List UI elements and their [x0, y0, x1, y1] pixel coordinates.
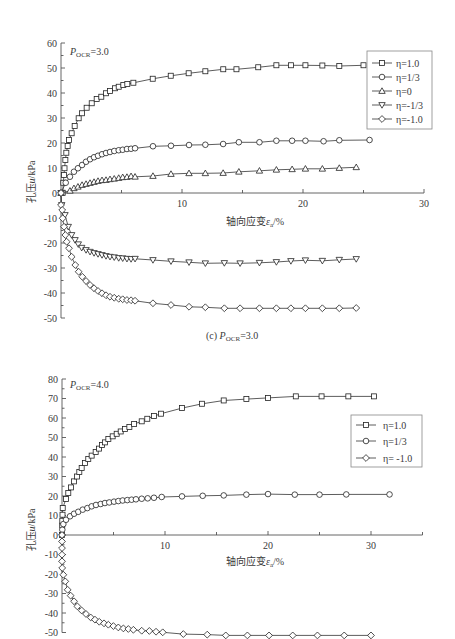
square-marker-icon [108, 89, 113, 94]
triangle-up-marker-icon [202, 170, 208, 176]
series-square [60, 394, 377, 538]
square-marker-icon [372, 394, 377, 399]
square-marker-icon [72, 479, 77, 484]
legend-label: η=1/3 [396, 72, 420, 83]
circle-marker-icon [159, 494, 165, 500]
x-axis-label: 轴向应变εa/% [226, 215, 284, 229]
diamond-marker-icon [150, 300, 157, 307]
series-line [62, 396, 374, 535]
square-marker-icon [127, 424, 132, 429]
diamond-marker-icon [273, 305, 280, 312]
y-axis-label: 孔压u/kPa [26, 508, 37, 551]
square-marker-icon [99, 94, 104, 99]
x-tick-label: 20 [298, 198, 308, 209]
diamond-marker-icon [353, 305, 360, 312]
square-marker-icon [337, 64, 342, 69]
square-marker-icon [62, 173, 67, 178]
square-marker-icon [151, 414, 156, 419]
circle-marker-icon [132, 145, 138, 151]
diamond-marker-icon [368, 632, 375, 639]
series-line [61, 193, 356, 308]
diamond-marker-icon [130, 626, 137, 633]
square-marker-icon [89, 101, 94, 106]
diamond-marker-icon [244, 632, 251, 639]
square-marker-icon [64, 150, 69, 155]
circle-marker-icon [244, 492, 250, 498]
legend-label: η= -1.0 [383, 453, 412, 464]
diamond-marker-icon [68, 253, 75, 260]
y-tick-label: -20 [44, 238, 57, 249]
circle-marker-icon [274, 138, 280, 144]
circle-marker-icon [179, 494, 185, 500]
x-tick-label: 10 [160, 540, 170, 551]
chart-annotation: POCR=4.0 [69, 379, 109, 392]
square-marker-icon [69, 131, 74, 136]
y-label-text: 孔压 [26, 183, 37, 203]
square-marker-icon [274, 63, 279, 68]
diamond-marker-icon [180, 631, 187, 638]
circle-marker-icon [236, 139, 242, 145]
annotation-symbol: P [69, 46, 76, 57]
y-tick-label: -10 [45, 549, 58, 560]
diamond-marker-icon [64, 586, 71, 593]
circle-marker-icon [133, 497, 139, 503]
circle-marker-icon [67, 174, 73, 180]
square-marker-icon [168, 73, 173, 78]
y-tick-label: 30 [48, 471, 58, 482]
square-marker-icon [303, 63, 308, 68]
square-marker-icon [84, 105, 89, 110]
y-label-unit: /kPa [26, 160, 37, 178]
chart-annotation: POCR=3.0 [69, 46, 109, 59]
y-tick-label: -40 [44, 288, 57, 299]
circle-marker-icon [343, 492, 349, 498]
diamond-marker-icon [186, 303, 193, 310]
y-tick-label: -50 [44, 313, 57, 324]
x-tick-label: 30 [366, 540, 376, 551]
annotation-symbol: P [69, 379, 76, 390]
x-label-unit: /% [273, 216, 284, 227]
square-marker-icon [361, 63, 366, 68]
circle-marker-icon [257, 139, 263, 145]
diamond-marker-icon [336, 305, 343, 312]
diamond-marker-icon [202, 304, 209, 311]
diamond-marker-icon [153, 628, 160, 635]
circle-marker-icon [220, 141, 226, 147]
x-tick-label: 10 [177, 198, 187, 209]
series-triangle-down [58, 191, 360, 267]
legend-label: η=1.0 [383, 420, 406, 431]
square-marker-icon [293, 394, 298, 399]
series-triangle-up [58, 164, 360, 195]
diamond-marker-icon [314, 632, 321, 639]
diamond-marker-icon [222, 632, 229, 639]
plot-1: 80706050403020100-10-20-30-40-50102030η=… [45, 374, 423, 639]
diamond-marker-icon [302, 305, 309, 312]
circle-marker-icon [265, 491, 271, 497]
diamond-marker-icon [59, 558, 66, 565]
circle-marker-icon [289, 138, 295, 144]
square-marker-icon [266, 395, 271, 400]
circle-marker-icon [379, 74, 385, 80]
y-tick-label: 40 [48, 452, 58, 463]
annotation-subscript: OCR [76, 51, 91, 59]
square-marker-icon [256, 65, 261, 70]
square-marker-icon [68, 485, 73, 490]
square-marker-icon [380, 61, 385, 66]
triangle-down-marker-icon [319, 258, 325, 264]
diamond-marker-icon [59, 551, 66, 558]
legend-label: η=-1.0 [396, 114, 423, 125]
annotation-value: =3.0 [91, 46, 109, 57]
square-marker-icon [65, 144, 70, 149]
y-tick-label: 0 [52, 188, 57, 199]
diamond-marker-icon [146, 628, 153, 635]
annotation-subscript: OCR [76, 384, 91, 392]
y-tick-label: 60 [48, 413, 58, 424]
legend: η=1.0η=1/3η=0η=-1/3η=-1.0 [367, 51, 432, 129]
square-marker-icon [319, 394, 324, 399]
circle-marker-icon [200, 493, 206, 499]
y-tick-label: 80 [48, 374, 58, 385]
figure: 6050403020100-10-20-30-40-50102030η=1.0η… [0, 0, 455, 639]
x-label-text: 轴向应变 [226, 215, 266, 227]
x-label-unit: /% [273, 556, 284, 567]
legend: η=1.0η=1/3η= -1.0 [351, 415, 422, 467]
diamond-marker-icon [288, 305, 295, 312]
